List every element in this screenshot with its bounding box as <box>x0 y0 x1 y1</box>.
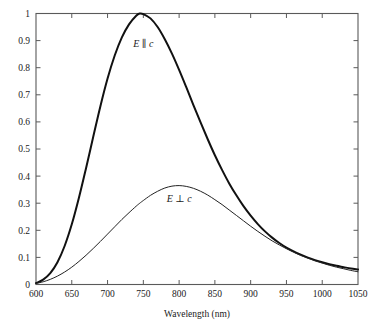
x-tick-label: 1050 <box>349 289 368 299</box>
parallel-symbol-icon: ∥ <box>142 38 147 49</box>
y-tick-label: 1 <box>25 9 30 19</box>
x-tick-label: 900 <box>244 289 259 299</box>
x-tick-label: 950 <box>279 289 294 299</box>
e-parallel-axis: c <box>149 38 154 49</box>
e-parallel-field: E <box>132 38 139 49</box>
x-axis-title: Wavelength (nm) <box>164 309 230 320</box>
x-tick-label: 800 <box>172 289 187 299</box>
y-tick-label: 0.7 <box>18 90 30 100</box>
x-tick-label: 650 <box>65 289 80 299</box>
y-tick-label: 0.5 <box>18 144 30 154</box>
label-e-parallel-c: E∥c <box>132 38 154 49</box>
e-perp-axis: c <box>187 193 192 204</box>
x-tick-label: 850 <box>208 289 223 299</box>
x-tick-label: 700 <box>100 289 115 299</box>
y-tick-label: 0.4 <box>18 172 30 182</box>
x-tick-label: 1000 <box>313 289 332 299</box>
y-tick-label: 0 <box>25 280 30 290</box>
chart-figure: 60065070075080085090095010001050 00.10.2… <box>0 0 381 325</box>
label-e-perpendicular-c: E⊥c <box>166 193 193 204</box>
y-tick-label: 0.9 <box>18 36 30 46</box>
x-tick-label: 600 <box>29 289 44 299</box>
e-perp-field: E <box>166 193 173 204</box>
y-tick-label: 0.6 <box>18 117 30 127</box>
y-tick-label: 0.3 <box>18 199 30 209</box>
y-tick-label: 0.2 <box>18 226 30 236</box>
y-tick-label: 0.8 <box>18 63 30 73</box>
absorption-spectrum-chart: 60065070075080085090095010001050 00.10.2… <box>0 0 381 325</box>
perpendicular-symbol-icon: ⊥ <box>175 193 184 204</box>
y-tick-label: 0.1 <box>18 253 30 263</box>
x-tick-label: 750 <box>136 289 151 299</box>
